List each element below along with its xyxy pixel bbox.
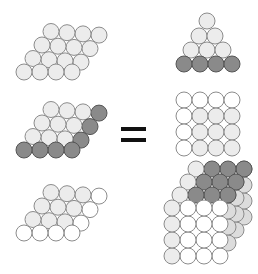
sphere [180,232,196,248]
sphere [48,225,64,241]
sphere [164,200,180,216]
sphere [164,216,180,232]
sphere [91,27,107,43]
sphere [34,115,50,131]
sphere [176,124,192,140]
sphere [192,92,208,108]
sphere [48,64,64,80]
left-layers [16,24,107,242]
sphere [164,232,180,248]
sphere [16,142,32,158]
sphere [164,248,180,264]
sphere [66,200,82,216]
sphere [192,140,208,156]
sphere [176,56,192,72]
sphere [199,42,215,58]
sphere [224,108,240,124]
sphere [176,92,192,108]
sphere [34,198,50,214]
sphere [50,199,66,215]
layer-bottom [16,185,107,242]
sphere [48,142,64,158]
layer-top [16,24,107,81]
sphere [224,56,240,72]
sphere [34,37,50,53]
sphere [180,200,196,216]
sphere [208,140,224,156]
sphere-packing-diagram: = [0,0,258,274]
sphere [82,202,98,218]
sphere [212,232,228,248]
sphere [32,225,48,241]
sphere [224,124,240,140]
sphere [180,216,196,232]
sphere [224,92,240,108]
sphere [64,142,80,158]
sphere [192,108,208,124]
sphere [75,187,91,203]
sphere [196,232,212,248]
sphere [82,41,98,57]
sphere [208,92,224,108]
sphere [212,216,228,232]
sphere [208,108,224,124]
sphere [183,42,199,58]
sphere [50,116,66,132]
sphere [176,108,192,124]
sphere [192,124,208,140]
sphere [43,185,59,201]
sphere [192,56,208,72]
layer-middle [16,102,107,159]
diagram-canvas [0,0,258,274]
sphere [75,26,91,42]
sphere [50,38,66,54]
equals-sign [121,127,146,142]
sphere [43,24,59,40]
sphere [176,140,192,156]
sphere [16,225,32,241]
sphere [66,39,82,55]
sphere [196,216,212,232]
sphere [215,42,231,58]
sphere [191,28,207,44]
sphere [208,56,224,72]
sphere [208,124,224,140]
sphere [66,117,82,133]
sphere [91,105,107,121]
sphere [224,140,240,156]
sphere [196,200,212,216]
sphere [196,248,212,264]
cube-view [164,161,252,264]
sphere [59,25,75,41]
sphere [32,64,48,80]
sphere [91,188,107,204]
sphere [180,248,196,264]
pyramid-view [176,13,240,72]
equals-bar-top [121,127,146,131]
sphere [59,103,75,119]
sphere [82,119,98,135]
sphere [64,225,80,241]
sphere [64,64,80,80]
sphere [32,142,48,158]
square-face-view [176,92,240,156]
equals-bar-bottom [121,138,146,142]
sphere [43,102,59,118]
sphere [16,64,32,80]
sphere [212,248,228,264]
sphere [59,186,75,202]
sphere [199,13,215,29]
sphere [207,28,223,44]
sphere [212,200,228,216]
sphere [75,104,91,120]
